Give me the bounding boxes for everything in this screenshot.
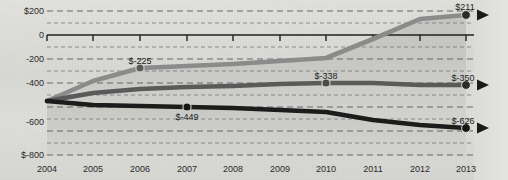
data-label-lower-2013: $-626 <box>436 116 490 126</box>
x-tick-label-2010: 2010 <box>303 164 349 174</box>
x-tick-label-2011: 2011 <box>350 164 396 174</box>
line-chart: $200 0 -200 -400 -600 $-800 2004 2005 20… <box>0 0 508 180</box>
chart-plot-area <box>0 0 508 180</box>
y-tick-label-200: $200 <box>0 6 44 16</box>
x-tick-label-2009: 2009 <box>257 164 303 174</box>
y-tick-label-0: 0 <box>0 30 44 40</box>
marker-lower-2007 <box>183 103 191 111</box>
y-tick-label-m200: -200 <box>0 54 44 64</box>
data-label-middle-2013: $-350 <box>436 73 490 83</box>
x-tick-label-2004: 2004 <box>24 164 70 174</box>
y-tick-label-m400: -400 <box>0 78 44 88</box>
y-tick-label-m600: -600 <box>0 117 44 127</box>
data-label-upper-2013: $211 <box>438 2 492 12</box>
end-arrow-markers <box>477 10 489 134</box>
data-label-middle-2010: $-338 <box>299 71 353 81</box>
x-tick-label-2006: 2006 <box>117 164 163 174</box>
x-tick-label-2007: 2007 <box>164 164 210 174</box>
y-tick-label-m800: $-800 <box>0 150 44 160</box>
x-tick-label-2012: 2012 <box>397 164 443 174</box>
x-tick-label-2005: 2005 <box>70 164 116 174</box>
data-label-upper-2006: $-225 <box>113 56 167 66</box>
x-tick-label-2013: 2013 <box>443 164 489 174</box>
x-tick-label-2008: 2008 <box>210 164 256 174</box>
data-label-lower-2007: $-449 <box>160 112 214 122</box>
